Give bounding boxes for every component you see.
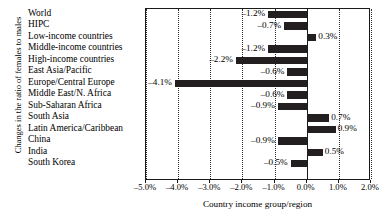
bar-row: –2.2% (146, 55, 369, 66)
category-label: South Korea (28, 157, 143, 168)
bar-row: –1.2% (146, 43, 369, 54)
bar (307, 114, 330, 121)
category-label: Low-income countries (28, 31, 143, 42)
bar (287, 91, 306, 98)
bar-value-label: –0.9% (251, 135, 275, 146)
bar-value-label: 0.3% (318, 31, 337, 42)
x-axis-ticks: –5.0%–4.0%–3.0%–2.0%–1.0%0.0%1.0%2.0% (145, 180, 370, 192)
bar-row: –0.7% (146, 20, 369, 31)
bar (268, 11, 307, 18)
bar-value-label: 0.9% (338, 123, 357, 134)
category-label: India (28, 146, 143, 157)
bar-value-label: –0.7% (257, 20, 281, 31)
bar (278, 103, 307, 110)
category-label: Middle-income countries (28, 42, 143, 53)
bar (307, 149, 323, 156)
category-label: Europe/Central Europe (28, 77, 143, 88)
bar-row: –4.1% (146, 78, 369, 89)
bar-value-label: 0.7% (331, 112, 350, 123)
bar-row: –1.2% (146, 9, 369, 20)
bar-row: 0.7% (146, 112, 369, 123)
bar (291, 160, 307, 167)
bar-row: –0.6% (146, 66, 369, 77)
category-label: South Asia (28, 111, 143, 122)
bar-row: 0.9% (146, 124, 369, 135)
x-tick-label: 2.0% (350, 182, 382, 192)
category-label: World (28, 8, 143, 19)
category-label: HIPC (28, 19, 143, 30)
category-label: East Asia/Pacific (28, 65, 143, 76)
plot-area: –1.2%–0.7%0.3%–1.2%–2.2%–0.6%–4.1%–0.6%–… (145, 8, 370, 180)
bar-value-label: –0.9% (251, 100, 275, 111)
category-label-column: WorldHIPCLow-income countriesMiddle-inco… (0, 8, 145, 180)
bar-row: –0.6% (146, 89, 369, 100)
bar (307, 34, 317, 41)
bar-row: 0.3% (146, 32, 369, 43)
bar (175, 80, 307, 87)
bar (307, 126, 336, 133)
bar-value-label: –4.1% (148, 77, 172, 88)
category-label: High-income countries (28, 54, 143, 65)
bar-value-label: –2.2% (209, 54, 233, 65)
bar-value-label: –0.5% (264, 157, 288, 168)
bar-value-label: –0.6% (261, 66, 285, 77)
bar-value-label: –1.2% (241, 8, 265, 19)
gridline (371, 9, 372, 179)
bar (284, 22, 307, 29)
bar-row: –0.9% (146, 101, 369, 112)
category-label: Middle East/N. Africa (28, 88, 143, 99)
category-label: China (28, 134, 143, 145)
bar (287, 68, 306, 75)
bar-row: –0.5% (146, 158, 369, 169)
x-axis-title: Country income group/region (145, 199, 370, 210)
category-label: Latin America/Caribbean (28, 123, 143, 134)
bar-row: –0.9% (146, 135, 369, 146)
bar-row: 0.5% (146, 147, 369, 158)
bar-chart-figure: Changes in the ratio of females to males… (0, 0, 382, 215)
category-label: Sub-Saharan Africa (28, 100, 143, 111)
bar (236, 57, 307, 64)
bar-value-label: 0.5% (325, 146, 344, 157)
bar (278, 137, 307, 144)
bar (268, 45, 307, 52)
bar-value-label: –1.2% (241, 43, 265, 54)
bar-value-label: –0.6% (261, 89, 285, 100)
